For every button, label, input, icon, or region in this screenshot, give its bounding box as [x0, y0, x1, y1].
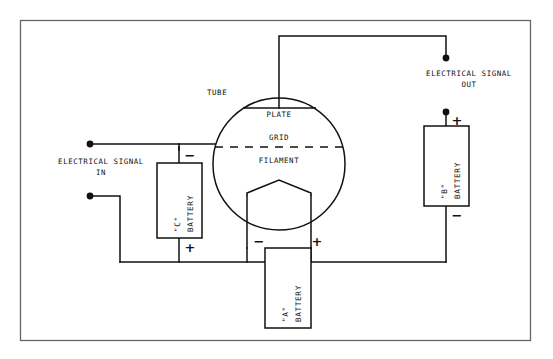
signal-in-bottom-terminal-dot[interactable] — [87, 193, 94, 200]
signal-in-label-line1: ELECTRICAL SIGNAL — [58, 157, 144, 166]
a-battery-positive-sign: + — [312, 235, 323, 248]
b-battery-name-quote: "B" — [440, 183, 449, 199]
c-battery-name-word: BATTERY — [186, 195, 195, 232]
a-battery-name-quote: "A" — [281, 306, 290, 322]
plate-label: PLATE — [266, 110, 291, 119]
signal-out-label-line2: OUT — [461, 80, 476, 89]
signal-in-top-terminal-dot[interactable] — [87, 141, 94, 148]
tube-label: TUBE — [207, 88, 227, 97]
b-battery-positive-sign: + — [452, 114, 463, 127]
signal-in-label-line2: IN — [96, 168, 106, 177]
c-battery-positive-sign: + — [185, 241, 196, 254]
a-battery-name-word: BATTERY — [294, 285, 303, 322]
signal-out-label-line1: ELECTRICAL SIGNAL — [426, 69, 512, 78]
a-battery-negative-sign: − — [254, 235, 265, 248]
filament-label: FILAMENT — [259, 156, 299, 165]
circuit-diagram-svg — [0, 0, 553, 359]
b-battery-name-word: BATTERY — [453, 162, 462, 199]
grid-label: GRID — [269, 133, 289, 142]
signal-out-bottom-terminal-dot[interactable] — [443, 109, 450, 116]
wire-signal-in-return — [90, 196, 120, 262]
b-battery-negative-sign: − — [452, 209, 463, 222]
signal-out-top-terminal-dot[interactable] — [443, 55, 450, 62]
filament-element — [247, 180, 311, 196]
schematic-canvas: TUBE PLATE GRID FILAMENT ELECTRICAL SIGN… — [0, 0, 553, 359]
wire-plate-to-output — [279, 36, 446, 108]
c-battery-name-quote: "C" — [173, 216, 182, 232]
c-battery-negative-sign: − — [185, 149, 196, 162]
